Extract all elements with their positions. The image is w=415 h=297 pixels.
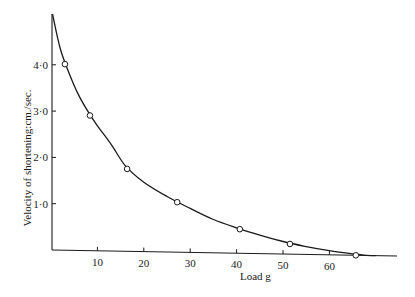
y-tick-label: 1·0 xyxy=(33,198,48,210)
data-points xyxy=(62,61,359,258)
x-tick-label: 20 xyxy=(138,257,150,269)
data-point-marker xyxy=(353,253,359,259)
y-tick-label: 2·0 xyxy=(33,151,48,163)
x-ticks: 102030405060 xyxy=(92,247,336,272)
data-point-marker xyxy=(62,61,68,67)
x-tick-label: 10 xyxy=(92,256,104,268)
y-ticks: 1·02·03·04·0 xyxy=(33,59,56,210)
data-point-marker xyxy=(237,226,243,232)
data-point-marker xyxy=(87,113,93,119)
x-tick-label: 50 xyxy=(278,259,290,271)
y-tick-label: 4·0 xyxy=(33,59,48,71)
x-tick-label: 60 xyxy=(324,260,336,272)
force-velocity-chart: 1·02·03·04·0 102030405060 Load g Velocit… xyxy=(0,0,415,297)
y-tick-label: 3·0 xyxy=(33,105,48,117)
data-point-marker xyxy=(287,241,293,247)
x-axis-label: Load g xyxy=(240,270,271,282)
data-point-marker xyxy=(174,199,180,205)
y-axis-label: Velocity of shortening:cm./sec. xyxy=(21,89,33,226)
fitted-curve xyxy=(53,14,376,256)
data-point-marker xyxy=(124,166,130,172)
x-tick-label: 40 xyxy=(231,258,243,270)
x-tick-label: 30 xyxy=(185,257,197,269)
